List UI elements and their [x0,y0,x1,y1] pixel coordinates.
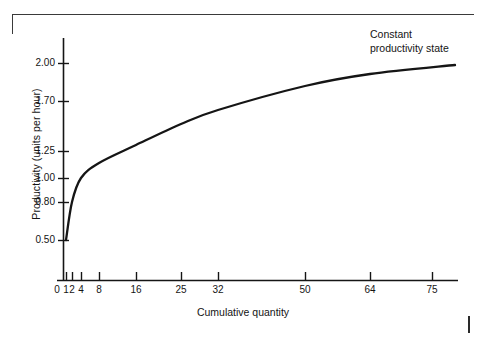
x-tick-label: 64 [358,284,382,295]
x-axis-title: Cumulative quantity [0,306,486,318]
x-tick-label: 25 [169,284,193,295]
constant-productivity-annotation: Constant productivity state [370,28,449,55]
x-axis-ticks [67,272,433,281]
productivity-curve [66,65,455,240]
x-tick-label: 50 [293,284,317,295]
y-tick-label: 0.50 [21,234,55,245]
x-tick-label: 75 [420,284,444,295]
x-tick-label: 8 [87,284,111,295]
y-tick-label: 1.25 [21,145,55,156]
figure-root: Productivity (units per hour) Cumulative… [0,0,486,340]
y-tick-label: 1.70 [21,95,55,106]
y-tick-label: 2.00 [21,57,55,68]
x-tick-label: 32 [206,284,230,295]
x-tick-label: 16 [124,284,148,295]
y-tick-label: 0.80 [21,196,55,207]
y-tick-label: 1.00 [21,172,55,183]
